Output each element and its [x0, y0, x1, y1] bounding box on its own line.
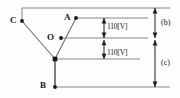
node-dot-neutral [53, 57, 58, 62]
dimension-arrow-upper-top [102, 18, 107, 23]
node-dot-a [74, 16, 78, 20]
dimension-arrow-lower-bottom [102, 54, 107, 59]
bracket-arrow-b-bottom [153, 33, 158, 38]
node-dot-b [53, 85, 57, 89]
circuit-diagram [0, 0, 180, 98]
node-dot-c [20, 19, 24, 23]
node-label-b: B [40, 81, 46, 90]
bracket-label-c: (c) [161, 59, 170, 67]
dimension-arrow-upper-bottom [102, 33, 107, 38]
voltage-label-lower: 110[V] [107, 49, 127, 57]
node-label-c: C [10, 16, 17, 25]
voltage-label-upper: 110[V] [107, 23, 127, 31]
node-label-a: A [64, 13, 71, 22]
bracket-label-b: (b) [161, 19, 170, 27]
bracket-arrow-c-top [153, 40, 158, 45]
node-label-o: O [47, 33, 54, 42]
diagram-canvas: C A O B 110[V] 110[V] (b) (c) [0, 0, 180, 98]
node-dot-o [59, 36, 63, 40]
bracket-arrow-c-bottom [153, 82, 158, 87]
dimension-arrow-lower-top [102, 40, 107, 45]
bracket-arrow-b-top [153, 8, 158, 13]
